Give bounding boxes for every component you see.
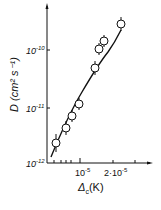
x-axis-arrow-icon (147, 162, 153, 165)
y-tick-label-1e-10: 10-10 (26, 45, 45, 56)
x-tick-label-1e-5: 10-5 (75, 167, 90, 178)
y-tick-label-1e-11: 10-11 (26, 103, 44, 114)
data-points (52, 17, 125, 152)
x-ticks (54, 158, 135, 163)
x-axis-title: Δc(K) (78, 181, 104, 195)
y-axis-title: D (cm² s⁻¹) (8, 57, 21, 112)
x-tick-label-2e-5: 2·10-5 (104, 167, 127, 178)
y-axis-arrow-icon (46, 3, 49, 9)
chart-plot (0, 0, 161, 210)
y-tick-label-1e-12: 10-12 (26, 158, 45, 169)
fit-curve (51, 30, 121, 157)
